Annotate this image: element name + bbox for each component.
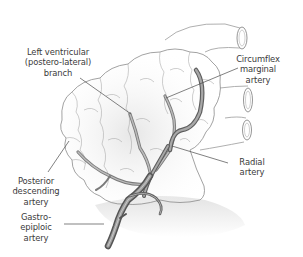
vessel-opening — [244, 88, 253, 112]
label-radial-artery: Radial artery — [230, 157, 274, 178]
label-posterior-descending-artery: Posterior descending artery — [10, 176, 62, 207]
label-gastro-epiploic-artery: Gastro- epiploic artery — [16, 212, 56, 243]
label-left-ventricular-branch: Left ventricular (postero-lateral) branc… — [22, 47, 94, 78]
heart-bypass-illustration: Left ventricular (postero-lateral) branc… — [0, 0, 303, 257]
label-circumflex-marginal-artery: Circumflex marginal artery — [228, 54, 288, 85]
